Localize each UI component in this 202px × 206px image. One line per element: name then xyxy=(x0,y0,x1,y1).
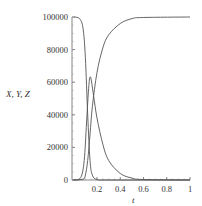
series-z-line xyxy=(74,17,190,180)
curves xyxy=(74,17,190,180)
x-axis-label: t xyxy=(132,195,135,205)
y-tick-label: 60000 xyxy=(47,77,68,87)
y-ticks: 020000400006000080000100000 xyxy=(43,12,76,185)
line-chart: 020000400006000080000100000 0.20.40.60.8… xyxy=(0,0,202,206)
y-tick-label: 40000 xyxy=(47,110,68,120)
x-tick-label: 1 xyxy=(188,184,192,194)
x-tick-label: 0.2 xyxy=(92,184,103,194)
y-tick-label: 80000 xyxy=(47,45,68,55)
y-tick-label: 20000 xyxy=(47,142,68,152)
series-y-line xyxy=(74,77,190,180)
y-axis-label: X, Y, Z xyxy=(5,89,31,99)
x-tick-label: 0.4 xyxy=(115,184,126,194)
y-tick-label: 100000 xyxy=(43,12,69,22)
y-tick-label: 0 xyxy=(64,175,68,185)
x-tick-label: 0.8 xyxy=(161,184,172,194)
series-x-line xyxy=(74,17,190,180)
x-tick-label: 0.6 xyxy=(138,184,149,194)
